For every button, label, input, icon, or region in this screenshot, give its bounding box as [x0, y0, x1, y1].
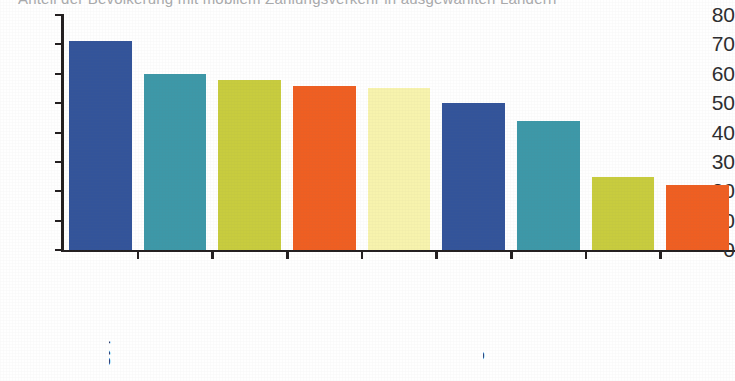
y-axis-tick-label: 70: [688, 33, 735, 54]
bar-chart: Anteil der Bevölkerung mit mobilem Zahlu…: [0, 0, 735, 381]
y-axis-tick-label: 50: [688, 92, 735, 113]
x-axis-tick: [286, 250, 289, 259]
y-axis-tick: [55, 43, 63, 45]
bar-kenia: [368, 88, 431, 250]
bar-ghana: [293, 86, 356, 251]
x-axis-tick: [211, 250, 214, 259]
x-axis-tick: [435, 250, 438, 259]
y-axis-tick-label: 40: [688, 122, 735, 143]
y-axis-tick-label: 60: [688, 63, 735, 84]
y-axis-tick: [55, 132, 63, 134]
y-axis-tick: [55, 73, 63, 75]
chart-title-clipped: Anteil der Bevölkerung mit mobilem Zahlu…: [0, 0, 735, 9]
bar-usa: [592, 177, 655, 250]
y-axis-tick: [55, 102, 63, 104]
x-axis-label-slot: Indien: [184, 264, 210, 381]
y-axis-tick: [55, 190, 63, 192]
bar-indonesien: [517, 121, 580, 250]
x-axis-tick: [659, 250, 662, 259]
x-axis-label-slot: Nigeria: [483, 264, 509, 381]
y-axis-tick: [55, 220, 63, 222]
y-axis-tick-label: 80: [688, 4, 735, 25]
x-axis-label-slot: Indonesien: [557, 264, 583, 381]
x-axis-tick: [137, 250, 140, 259]
x-axis-tick: [510, 250, 513, 259]
y-axis-tick: [55, 249, 63, 251]
bar-gypten: [69, 41, 132, 250]
y-axis-tick-label: 30: [688, 151, 735, 172]
x-axis-tick: [361, 250, 364, 259]
x-axis-tick: [585, 250, 588, 259]
x-axis-label-slot: Ägypten: [109, 264, 135, 381]
bar-indien: [144, 74, 207, 250]
chart-title-text: Anteil der Bevölkerung mit mobilem Zahlu…: [18, 0, 556, 7]
bar-nigeria: [442, 103, 505, 250]
x-axis-label-slot: USA: [632, 264, 658, 381]
y-axis-tick: [55, 14, 63, 16]
x-axis-label-slot: Ghana: [333, 264, 359, 381]
bar-gb: [666, 185, 729, 250]
x-axis-label-slot: Südafrika: [259, 264, 285, 381]
bar-sdafrika: [218, 80, 281, 250]
y-axis-tick: [55, 161, 63, 163]
x-axis-label-slot: GB: [707, 264, 733, 381]
x-axis-label-slot: Kenia: [408, 264, 434, 381]
